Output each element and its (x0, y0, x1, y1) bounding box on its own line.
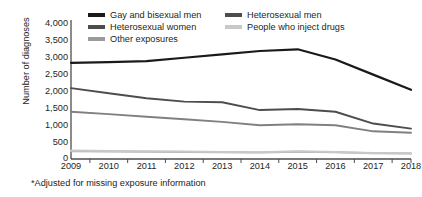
chart-footnote: *Adjusted for missing exposure informati… (31, 178, 206, 188)
x-axis-tick-label: 2013 (205, 162, 239, 171)
x-axis-tick-label: 2012 (167, 162, 201, 171)
series-line-gay-and-bisexual-men (71, 49, 411, 89)
series-lines (71, 49, 411, 153)
series-line-people-who-inject-drugs (71, 151, 411, 154)
axis-lines (71, 20, 411, 159)
line-chart-figure: Gay and bisexual men Heterosexual women … (0, 0, 422, 197)
x-axis-tick-label: 2015 (281, 162, 315, 171)
x-axis-tick-label: 2016 (318, 162, 352, 171)
x-axis-tick-label: 2010 (92, 162, 126, 171)
x-axis-tick-label: 2017 (356, 162, 390, 171)
x-axis-tick-label: 2014 (243, 162, 277, 171)
x-axis-tick-label: 2011 (130, 162, 164, 171)
series-line-heterosexual-men (71, 88, 411, 129)
x-axis-tick-label: 2018 (394, 162, 422, 171)
x-axis-tick-label: 2009 (54, 162, 88, 171)
series-line-heterosexual-women (71, 112, 411, 133)
